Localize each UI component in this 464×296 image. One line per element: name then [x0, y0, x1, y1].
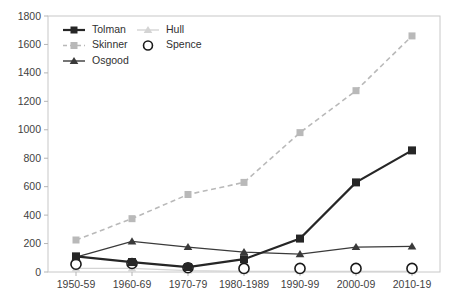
legend-marker-tolman	[71, 27, 78, 34]
x-tick-label: 2010-19	[393, 278, 432, 290]
y-tick-label: 1600	[18, 38, 42, 50]
y-tick-label: 600	[23, 180, 41, 192]
data-point-spence-6	[407, 263, 417, 273]
data-point-skinner-0	[73, 237, 80, 244]
data-point-tolman-2	[184, 263, 192, 271]
legend-label-spence: Spence	[166, 38, 202, 50]
x-tick-label: 1950-59	[57, 278, 96, 290]
y-tick-label: 0	[35, 266, 41, 278]
legend-label-tolman: Tolman	[92, 23, 126, 35]
line-chart: 180016001400120010008006004002000 1950-5…	[0, 0, 464, 296]
legend-marker-skinner	[71, 42, 78, 49]
chart-canvas: 180016001400120010008006004002000 1950-5…	[0, 0, 464, 296]
y-tick-label: 1200	[18, 95, 42, 107]
data-point-spence-5	[351, 263, 361, 273]
data-point-spence-0	[71, 259, 81, 269]
data-point-tolman-3	[240, 255, 248, 263]
data-point-skinner-3	[241, 179, 248, 186]
data-point-skinner-6	[409, 32, 416, 39]
y-tick-label: 400	[23, 209, 41, 221]
x-tick-label: 1970-79	[169, 278, 208, 290]
x-tick-label: 1960-69	[113, 278, 152, 290]
y-tick-label: 800	[23, 152, 41, 164]
legend-label-hull: Hull	[166, 23, 184, 35]
y-tick-label: 1800	[18, 10, 42, 22]
data-point-skinner-2	[185, 191, 192, 198]
y-tick-label: 1400	[18, 66, 42, 78]
data-point-spence-4	[295, 263, 305, 273]
data-point-skinner-5	[353, 87, 360, 94]
x-tick-label: 2000-09	[337, 278, 376, 290]
legend-label-skinner: Skinner	[92, 38, 128, 50]
data-point-tolman-4	[296, 235, 304, 243]
data-point-tolman-1	[128, 258, 136, 266]
data-point-tolman-5	[352, 178, 360, 186]
data-point-tolman-6	[408, 146, 416, 154]
x-tick-label: 1990-99	[281, 278, 320, 290]
data-point-skinner-4	[297, 129, 304, 136]
data-point-tolman-0	[72, 252, 80, 260]
data-point-spence-3	[239, 263, 249, 273]
y-tick-label: 1000	[18, 123, 42, 135]
data-point-skinner-1	[129, 215, 136, 222]
legend-label-osgood: Osgood	[92, 54, 129, 66]
x-tick-label: 1980-1989	[219, 278, 269, 290]
y-tick-label: 200	[23, 237, 41, 249]
legend-marker-spence	[144, 41, 153, 50]
